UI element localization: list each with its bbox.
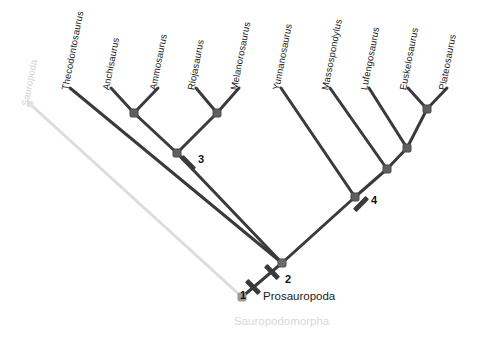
node-euskelosaurus-plateosaurus [423,105,431,113]
node-anchisaurus-ammosaurus [130,109,138,117]
branch-node4-to-massospondylus-clade [355,169,387,197]
branch-lufengosaurus [369,88,407,148]
branch-sauropoda [30,104,242,297]
internal-node-squares [130,105,431,301]
node-prosauropoda [278,259,286,267]
node-number-3: 3 [198,153,204,165]
node-lufengosaurus-clade [403,144,411,152]
node-riojasaurus-melanorosaurus [213,109,221,117]
node-number-1: 1 [240,289,246,301]
clade-label-prosauropoda: Prosauropoda [263,290,335,302]
node-number-4: 4 [371,194,377,206]
node-number-2: 2 [285,273,291,285]
cladogram-figure: Sauropoda Thecodontosaurus Anchisaurus A… [0,0,485,339]
node-massospondylus-clade [383,165,391,173]
change-bar-3-icon [180,155,196,171]
node-node3-clade [173,149,181,157]
branch-yunnanosaurus [281,88,355,197]
node-node4-clade [351,193,359,201]
branch-node3-to-riojasaurus-melanorosaurus [177,113,217,153]
clade-label-sauropodomorpha: Sauropodomorpha [234,315,329,327]
branch-to-euskelosaurus-plateosaurus [407,109,427,148]
branch-to-node4-clade [282,197,355,263]
